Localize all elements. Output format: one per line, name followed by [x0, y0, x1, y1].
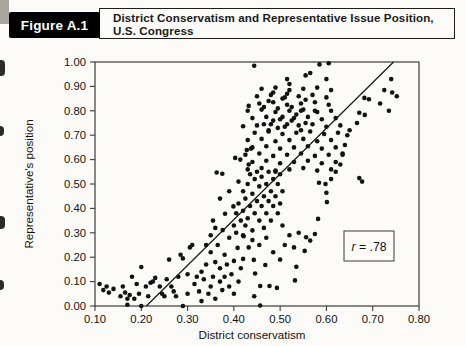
scatter-point — [292, 145, 297, 150]
scatter-point — [345, 133, 350, 138]
scatter-point — [218, 266, 223, 271]
scatter-point — [130, 274, 135, 279]
scatter-point — [313, 154, 318, 159]
scatter-point — [250, 116, 255, 121]
scatter-point — [310, 122, 315, 127]
scatter-point — [287, 233, 292, 238]
scatter-point — [355, 121, 360, 126]
scatter-point — [259, 166, 264, 171]
scatter-point — [308, 129, 313, 134]
scatter-point — [101, 288, 106, 293]
scatter-point — [132, 296, 137, 301]
x-axis-label: District conservatism — [199, 328, 306, 341]
scatter-point — [271, 154, 276, 159]
y-tick-label: 0.50 — [64, 178, 86, 190]
scatter-point — [395, 94, 400, 99]
scatter-point — [258, 303, 263, 308]
scatter-point — [280, 223, 285, 228]
scatter-point — [271, 204, 276, 209]
scatter-point — [336, 131, 341, 136]
scatter-point — [190, 243, 195, 248]
scatter-point — [271, 100, 276, 105]
scatter-point — [262, 194, 267, 199]
scatter-point — [252, 294, 257, 299]
scatter-point — [278, 146, 283, 151]
scatter-point — [167, 257, 172, 262]
scatter-point — [315, 168, 320, 173]
scatter-point — [246, 245, 251, 250]
scatter-point — [308, 238, 313, 243]
scatter-point — [204, 262, 209, 267]
scatter-point — [248, 172, 253, 177]
scatter-point — [289, 105, 294, 110]
scatter-point — [255, 123, 260, 128]
scatter-point — [299, 101, 304, 106]
scatter-point — [340, 152, 345, 157]
scatter-point — [264, 235, 269, 240]
scatter-point — [269, 189, 274, 194]
scatter-point — [285, 91, 290, 96]
scatter-point — [360, 179, 365, 184]
scatter-point — [185, 272, 190, 277]
scatter-point — [111, 287, 116, 292]
scatter-point — [266, 128, 271, 133]
scatter-point — [252, 63, 257, 68]
scatter-point — [218, 279, 223, 284]
y-tick-label: 0.70 — [64, 129, 86, 141]
scatter-point — [301, 87, 306, 92]
scatter-point — [192, 282, 197, 287]
scatter-point — [222, 253, 227, 258]
scatter-point — [324, 77, 329, 82]
figure-title-box: District Conservatism and Representative… — [99, 8, 455, 39]
scatter-point — [264, 211, 269, 216]
scatter-point — [273, 168, 278, 173]
scatter-point — [273, 194, 278, 199]
scatter-point — [255, 199, 260, 204]
scatter-point — [320, 146, 325, 151]
scatter-point — [139, 265, 144, 270]
scatter-point — [245, 167, 250, 172]
scatter-point — [310, 93, 315, 98]
y-tick-label: 0.80 — [64, 105, 86, 117]
scatter-point — [296, 94, 301, 99]
y-tick-label: 0.90 — [64, 80, 86, 92]
scatter-point — [271, 250, 276, 255]
scatter-point — [306, 159, 311, 164]
scatter-point — [245, 109, 250, 114]
scatter-point — [195, 274, 200, 279]
scatter-point — [257, 184, 262, 189]
scatter-point — [239, 218, 244, 223]
scatter-point — [215, 243, 220, 248]
scatter-point — [266, 99, 271, 104]
x-tick-label: 0.50 — [269, 313, 291, 325]
scatter-point — [271, 118, 276, 123]
scatter-point — [253, 271, 258, 276]
scatter-point — [259, 174, 264, 179]
scatter-point — [257, 218, 262, 223]
scatter-point — [257, 151, 262, 156]
scatter-point — [236, 279, 241, 284]
scatter-point — [296, 231, 301, 236]
scatter-point — [125, 303, 130, 308]
x-tick-label: 0.30 — [177, 313, 199, 325]
scatter-point — [239, 266, 244, 271]
scatter-point — [294, 264, 299, 269]
scatter-point — [241, 189, 246, 194]
scatter-point — [301, 166, 306, 171]
scatter-point — [246, 162, 251, 167]
scatter-point — [213, 260, 218, 265]
scatter-point — [325, 200, 330, 205]
scatter-point — [139, 304, 144, 309]
scatter-point — [317, 181, 322, 186]
scatter-point — [245, 216, 250, 221]
scatter-point — [255, 94, 260, 99]
x-tick-label: 0.20 — [130, 313, 152, 325]
figure-label: Figure A.1 — [9, 12, 100, 38]
scatter-point — [362, 96, 367, 101]
scatter-point — [236, 201, 241, 206]
scatter-point — [227, 235, 232, 240]
scatter-point — [197, 289, 202, 294]
scatter-point — [259, 87, 264, 92]
scatter-point — [181, 256, 186, 261]
scatter-point — [285, 152, 290, 157]
